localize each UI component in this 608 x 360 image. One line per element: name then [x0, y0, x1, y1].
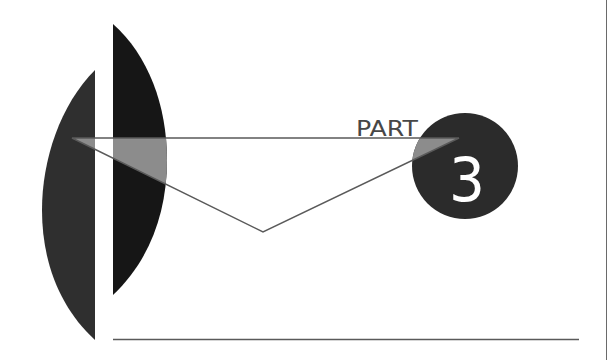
part-label: PART [356, 116, 419, 141]
part-divider-slide: PART 3 [0, 0, 608, 360]
part-number: 3 [449, 145, 485, 215]
left-half-ellipse-shape [42, 70, 95, 340]
